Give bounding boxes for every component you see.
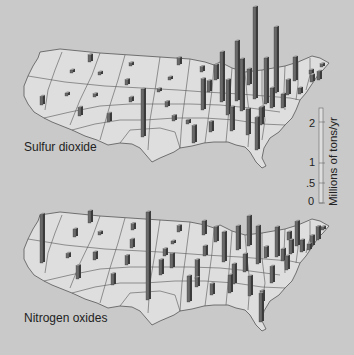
emission-bar	[295, 220, 300, 246]
emission-bar	[177, 56, 182, 65]
emission-bar	[146, 211, 151, 301]
emission-bar	[310, 73, 315, 82]
emission-bar	[286, 78, 291, 95]
emission-bar	[125, 78, 130, 85]
emission-bar	[165, 100, 170, 107]
so2-title: Sulfur dioxide	[24, 140, 97, 154]
scale-tick-1: 1	[309, 156, 315, 168]
emission-bar	[203, 245, 208, 257]
emission-bar	[187, 275, 192, 303]
emission-bar	[270, 265, 275, 283]
emission-bar	[289, 239, 294, 255]
emission-bar	[78, 106, 83, 116]
emission-bar	[201, 77, 206, 110]
emission-bar	[281, 93, 286, 109]
emission-bar	[170, 252, 175, 268]
emission-bar	[246, 108, 251, 136]
us-maps	[0, 0, 354, 355]
emission-bar	[247, 68, 252, 86]
emissions-figure: Sulfur dioxide Nitrogen oxides 2 1 .5 0 …	[0, 0, 354, 355]
emission-bar	[192, 124, 197, 143]
emission-bar	[195, 258, 200, 279]
emission-bar	[214, 63, 219, 80]
emission-bar	[40, 95, 45, 105]
scale-unit-label: Millions of tons/yr	[327, 117, 339, 206]
emission-bar	[228, 274, 233, 294]
emission-bar	[264, 57, 269, 105]
scale-tick-05: .5	[306, 177, 315, 189]
emission-bar	[131, 222, 136, 230]
emission-bar	[317, 70, 322, 80]
emission-bar	[255, 116, 260, 150]
emission-bar	[240, 58, 245, 112]
emission-bar	[111, 272, 116, 285]
emission-bar	[243, 253, 248, 273]
emission-bar	[210, 282, 215, 295]
emission-bar	[202, 220, 207, 236]
scale-tick-2: 2	[309, 117, 315, 129]
emission-bar	[107, 112, 112, 122]
emission-bar	[293, 56, 298, 82]
emission-bar	[298, 87, 303, 95]
emission-bar	[274, 26, 279, 94]
emission-bar	[195, 276, 200, 287]
emission-bar	[125, 254, 130, 265]
emission-bar	[177, 224, 182, 232]
emission-bar	[222, 231, 227, 263]
emission-bar	[88, 53, 93, 62]
emission-bar	[214, 225, 219, 242]
emission-bar	[264, 245, 269, 258]
emission-bar	[307, 243, 312, 251]
emission-bar	[93, 251, 98, 261]
emission-bar	[172, 114, 177, 121]
emission-bar	[236, 225, 241, 251]
emission-bar	[88, 210, 93, 224]
emission-bar	[235, 40, 240, 102]
emission-bar	[76, 264, 81, 279]
emission-bar	[300, 239, 305, 253]
emission-bar	[159, 258, 164, 275]
emission-bar	[141, 88, 146, 138]
emission-bar	[275, 226, 280, 258]
emission-bar	[207, 79, 212, 92]
emission-bar	[163, 247, 168, 256]
emission-bar	[230, 106, 235, 132]
emission-bar	[270, 87, 275, 109]
scale-tick-0: 0	[308, 195, 314, 207]
emission-bar	[220, 51, 225, 103]
emission-bar	[253, 6, 258, 100]
emission-bar	[256, 225, 261, 265]
emission-bar	[40, 213, 45, 263]
emission-bar	[248, 275, 253, 297]
scale-bar	[319, 108, 325, 203]
nox-title: Nitrogen oxides	[24, 311, 107, 325]
emission-bar	[200, 65, 205, 72]
emission-bar	[209, 120, 214, 132]
emission-bar	[130, 238, 135, 248]
emission-bar	[73, 228, 78, 238]
emission-bar	[285, 255, 290, 271]
emission-bar	[259, 292, 264, 322]
emission-bar	[247, 215, 252, 247]
emission-bar	[316, 225, 321, 240]
